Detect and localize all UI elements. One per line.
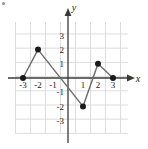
x-axis-label: x <box>135 73 141 84</box>
x-tick-label: 3 <box>111 80 116 90</box>
y-axis-label: y <box>71 2 77 13</box>
y-tick-label: -3 <box>57 116 65 126</box>
y-tick-label: 3 <box>60 31 65 41</box>
axes <box>8 8 135 143</box>
data-point-marker <box>110 75 116 81</box>
y-tick-label: 2 <box>60 45 65 55</box>
x-tick-label: 2 <box>96 80 101 90</box>
y-tick-label: -1 <box>57 87 65 97</box>
x-tick-label: 1 <box>81 80 86 90</box>
coordinate-plane-plot: -3-2-1123 321-1-2-3 x y <box>0 0 148 149</box>
x-axis-arrow-icon <box>127 75 135 82</box>
y-axis-arrow-icon <box>65 8 72 16</box>
y-tick-label: -2 <box>57 102 65 112</box>
x-tick-label: -2 <box>34 80 42 90</box>
data-point-marker <box>95 61 101 67</box>
data-point-marker <box>20 75 26 81</box>
data-point-marker <box>80 103 86 109</box>
y-tick-label: 1 <box>60 59 65 69</box>
graph-figure: -3-2-1123 321-1-2-3 x y <box>0 0 148 149</box>
x-tick-label: -3 <box>19 80 27 90</box>
data-point-marker <box>35 47 41 53</box>
